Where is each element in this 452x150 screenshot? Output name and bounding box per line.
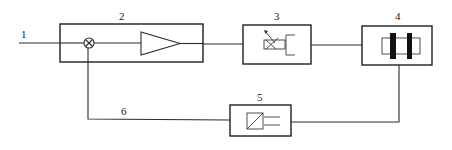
feedback-line [88, 48, 230, 120]
label-input: 1 [21, 28, 27, 40]
label-actuator-box: 3 [274, 10, 280, 22]
actuator-box [243, 25, 311, 64]
capacitor-plates-icon [382, 33, 420, 59]
block-diagram: 1 2 3 4 5 [0, 0, 452, 150]
line-4-to-5 [291, 65, 399, 122]
summing-junction-icon [84, 38, 94, 48]
converter-icon [247, 113, 280, 129]
amplifier-icon [141, 32, 180, 55]
label-controller-box: 2 [119, 10, 125, 22]
process-box [362, 26, 432, 65]
sensor-box [230, 105, 291, 136]
label-feedback-line: 6 [121, 105, 127, 117]
label-sensor-box: 5 [257, 91, 263, 103]
label-process-box: 4 [395, 10, 401, 22]
adjustable-valve-icon [264, 30, 295, 55]
